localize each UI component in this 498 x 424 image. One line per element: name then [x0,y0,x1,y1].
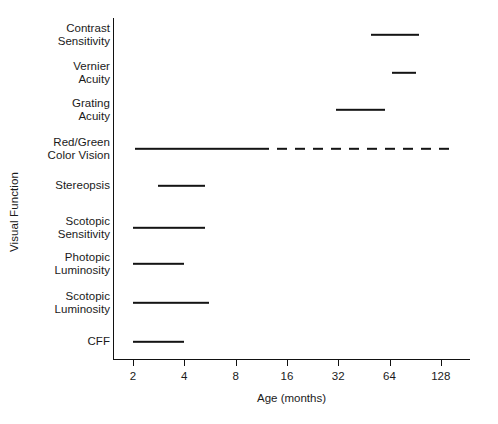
x-axis-tick-label: 64 [383,370,396,382]
data-bar-dashed [259,148,452,150]
data-bar-solid [133,227,205,229]
data-bar-solid [133,263,184,265]
x-axis-tick-label: 4 [181,370,187,382]
x-axis-tick-label: 2 [130,370,136,382]
data-bar-solid [392,72,417,74]
y-axis-tick-labels: Contrast SensitivityVernier AcuityGratin… [26,0,110,424]
scan-artifact-text [286,409,476,417]
y-axis-category-label: Contrast Sensitivity [26,22,110,48]
x-axis-tick [236,360,237,366]
y-axis-category-label: Stereopsis [26,179,110,192]
y-axis-category-label: Scotopic Sensitivity [26,215,110,241]
y-axis-category-label: Red/Green Color Vision [26,136,110,162]
data-bar-solid [158,185,205,187]
x-axis-tick [390,360,391,366]
y-axis-category-label: Scotopic Luminosity [26,290,110,316]
y-axis-category-label: CFF [26,335,110,348]
data-bar-solid [133,341,184,343]
data-bar-solid [133,302,209,304]
x-axis-tick [184,360,185,366]
x-axis-tick-label: 128 [431,370,450,382]
visual-function-development-chart: Visual Function Contrast SensitivityVern… [0,0,498,424]
y-axis-category-label: Grating Acuity [26,97,110,123]
y-axis-category-label: Photopic Luminosity [26,251,110,277]
plot-area: 248163264128 [113,18,470,360]
y-axis-category-label: Vernier Acuity [26,60,110,86]
x-axis-tick [338,360,339,366]
y-axis-line [113,18,114,360]
x-axis-tick-label: 16 [280,370,293,382]
y-axis-title: Visual Function [0,0,28,424]
x-axis-title: Age (months) [113,392,470,404]
x-axis-tick-label: 32 [332,370,345,382]
data-bar-solid [336,109,385,111]
data-bar-solid [371,34,419,36]
data-bar-solid [135,148,259,150]
y-axis-title-label: Visual Function [8,172,20,252]
x-axis-tick [441,360,442,366]
x-axis-tick-label: 8 [232,370,238,382]
x-axis-line [113,359,470,360]
x-axis-tick [133,360,134,366]
x-axis-tick [287,360,288,366]
